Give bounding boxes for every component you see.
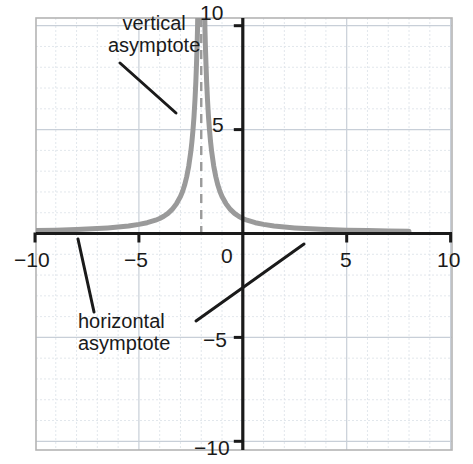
- x-tick-label-5: 5: [340, 249, 352, 270]
- horizontal-asymptote-label-line1: horizontal: [78, 310, 170, 332]
- y-tick-label-neg5: −5: [203, 329, 227, 350]
- x-tick-label-neg10: −10: [14, 249, 50, 270]
- vertical-asymptote-label-line2: asymptote: [108, 34, 200, 56]
- x-tick-label-0: 0: [221, 245, 233, 266]
- horizontal-asymptote-label: horizontalasymptote: [78, 310, 170, 355]
- vertical-asymptote-label-line1: vertical: [108, 12, 200, 34]
- x-tick-label-10: 10: [437, 249, 460, 270]
- y-tick-label-neg10: −10: [194, 437, 230, 458]
- x-tick-label-neg5: −5: [124, 249, 148, 270]
- horizontal-asymptote-label-line2: asymptote: [78, 332, 170, 354]
- graph-figure: −10−50510105−5−10 verticalasymptote hori…: [0, 0, 473, 464]
- y-tick-label-5: 5: [212, 114, 224, 135]
- y-tick-label-10: 10: [200, 2, 223, 23]
- plot-canvas: [0, 0, 473, 464]
- vertical-asymptote-label: verticalasymptote: [108, 12, 200, 57]
